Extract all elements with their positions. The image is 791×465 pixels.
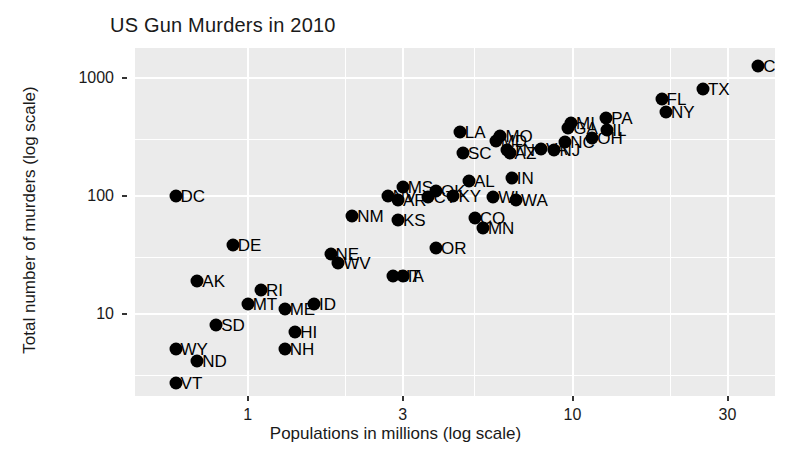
data-point-label: KS [403,211,426,228]
data-point-label: WV [343,254,370,271]
chart-root: US Gun Murders in 2010 Total number of m… [0,0,791,465]
y-tick-mark [122,195,127,197]
gridline-vertical [727,48,729,396]
data-point-label: OH [597,129,623,146]
data-point-label: HI [300,323,317,340]
data-point-label: LA [465,123,486,140]
data-point-label: AZ [515,144,537,161]
data-point-label: TX [708,81,730,98]
data-point-label: VT [181,374,203,391]
data-point-label: DC [181,188,206,205]
x-tick-label: 3 [398,406,407,424]
y-tick-label: 1000 [78,69,114,87]
data-point-label: IA [408,267,424,284]
gridline-horizontal [135,313,775,315]
gridline-vertical-minor [345,48,346,396]
data-point-label: VA [546,140,567,157]
gridline-horizontal [135,77,775,79]
gridline-horizontal-minor [135,375,775,376]
data-point-label: SC [468,145,492,162]
y-tick-label: 100 [87,187,114,205]
data-point-label: SD [221,317,245,334]
x-tick-label: 30 [719,406,737,424]
y-tick-label: 10 [96,305,114,323]
data-point-label: IN [517,169,534,186]
data-point-label: MN [488,220,514,237]
data-point-label: NC [570,134,595,151]
data-point-label: WA [521,191,548,208]
data-point-label: DE [238,237,262,254]
gridline-vertical [572,48,574,396]
plot-area: CATXFLNYPAMIILOHGANJNCLAMOSCVAMDTNAZALIN… [135,48,775,396]
y-tick-mark [122,77,127,79]
data-point-label: AK [202,272,225,289]
data-point-label: CA [763,58,775,75]
x-tick-mark [402,396,404,401]
data-point-label: NH [290,341,315,358]
y-axis-ticks: 101001000 [0,48,128,396]
data-point-label: MT [253,296,278,313]
x-tick-mark [247,396,249,401]
chart-title: US Gun Murders in 2010 [110,14,336,37]
data-point-label: ND [202,352,227,369]
x-tick-label: 1 [243,406,252,424]
data-point-label: ID [319,296,336,313]
data-point-label: NV [393,187,417,204]
data-point-label: CT [433,189,456,206]
gridline-horizontal-minor [135,139,775,140]
y-tick-mark [122,313,127,315]
gridline-vertical [247,48,249,396]
x-tick-mark [572,396,574,401]
x-tick-mark [727,396,729,401]
x-axis-ticks: 131030 [135,396,775,426]
data-point-label: KY [458,187,481,204]
x-tick-label: 10 [564,406,582,424]
x-axis-title: Populations in millions (log scale) [0,424,791,444]
data-point-label: NY [671,103,695,120]
data-point-label: OR [441,240,467,257]
data-point-label: NM [357,208,383,225]
